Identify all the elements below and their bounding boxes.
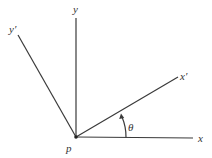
angle-theta-marker: [119, 114, 126, 138]
x-axis: [76, 137, 193, 138]
theta-label: θ: [128, 121, 134, 133]
angle-arc: [122, 117, 126, 138]
y-prime-axis: [18, 35, 76, 137]
y-axis-label: y: [72, 3, 78, 15]
origin-label: p: [65, 142, 72, 154]
angle-arrowhead-icon: [119, 114, 124, 120]
x-axis-label: x: [197, 132, 203, 144]
origin-point: [74, 135, 78, 139]
x-prime-axis-label: x′: [179, 70, 188, 82]
rotated-axes-diagram: p x y x′ y′ θ: [0, 0, 212, 158]
y-prime-axis-label: y′: [8, 23, 17, 35]
x-prime-axis: [76, 77, 178, 137]
axes-group: [18, 18, 193, 138]
